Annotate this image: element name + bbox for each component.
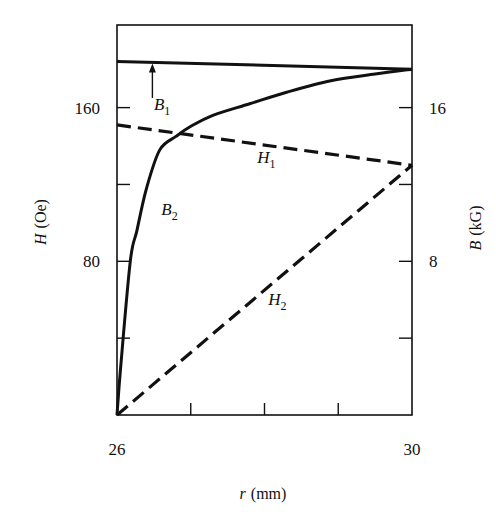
y-left-axis-title: H(Oe) xyxy=(32,199,50,246)
curves xyxy=(117,62,412,415)
y-right-tick-label-8: 8 xyxy=(429,252,438,271)
plot-border xyxy=(117,25,412,415)
curve-b1 xyxy=(117,62,412,70)
y-right-tick-label-16: 16 xyxy=(429,99,446,118)
x-tick-label-30: 30 xyxy=(404,440,421,459)
curve-label-h2: H2 xyxy=(267,290,286,313)
plot-frame xyxy=(117,25,412,415)
y-right-axis-title: B(kG) xyxy=(467,206,485,251)
curve-label-b2: B2 xyxy=(161,200,177,223)
chart: 26 30 80 160 8 16 r(mm) H(Oe) B(kG) B1B2… xyxy=(0,0,496,523)
arrow-head-icon xyxy=(149,63,156,72)
curve-label-b1: B1 xyxy=(154,95,170,118)
labels: 26 30 80 160 8 16 r(mm) H(Oe) B(kG) B1B2… xyxy=(32,95,485,503)
x-axis-title: r(mm) xyxy=(240,485,287,503)
y-left-tick-label-160: 160 xyxy=(75,99,101,118)
curve-label-h1: H1 xyxy=(256,148,275,171)
x-tick-label-26: 26 xyxy=(109,440,126,459)
y-left-tick-label-80: 80 xyxy=(83,252,100,271)
curve-b2 xyxy=(117,69,412,415)
